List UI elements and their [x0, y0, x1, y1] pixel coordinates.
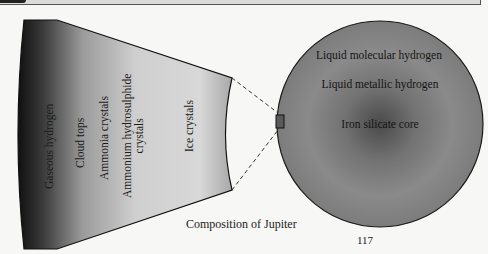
layer-label-ammonia-crystals: Ammonia crystals	[98, 96, 110, 180]
zoom-line-bottom	[232, 130, 278, 190]
layer-label-gaseous-hydrogen: Gaseous hydrogen	[43, 104, 55, 189]
layer-label-cloud-tops: Cloud tops	[74, 118, 86, 168]
layer-label-ammonium-line2: crystals	[133, 74, 145, 198]
layer-label-ammonium-hydrosulphide: Ammonium hydrosulphide crystals	[121, 74, 145, 198]
page-number: 117	[357, 234, 373, 246]
figure-caption: Composition of Jupiter	[186, 217, 297, 232]
layer-label-ammonium-line1: Ammonium hydrosulphide	[121, 74, 133, 198]
sphere-label-liquid-molecular-hydrogen: Liquid molecular hydrogen	[316, 49, 442, 61]
zoom-marker	[276, 115, 284, 128]
sphere-label-liquid-metallic-hydrogen: Liquid metallic hydrogen	[322, 78, 439, 90]
layer-label-ice-crystals: Ice crystals	[183, 100, 195, 152]
zoom-line-top	[232, 78, 278, 113]
sphere-label-iron-silicate-core: Iron silicate core	[341, 118, 418, 130]
